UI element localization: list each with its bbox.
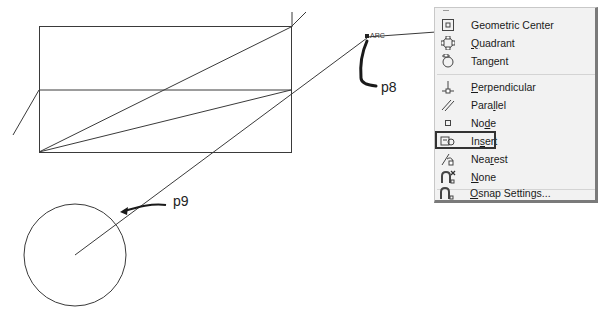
- menu-item-quadrant[interactable]: Quadrant: [435, 34, 593, 52]
- menu-item-insert[interactable]: Insert: [435, 132, 593, 150]
- extension-line-top-right: [291, 12, 306, 27]
- menu-item-node[interactable]: Node: [435, 114, 593, 132]
- nearest-icon: [439, 151, 457, 167]
- quadrant-icon: [439, 35, 457, 51]
- menu-item-label: Tangent: [471, 55, 508, 67]
- snap-marker-icon: [365, 34, 369, 38]
- menu-item-label: Geometric Center: [471, 19, 554, 31]
- osnap-settings-icon: [438, 185, 456, 201]
- node-icon: [439, 115, 457, 131]
- menu-item-osnap-settings-row[interactable]: Osnap Settings...: [434, 184, 592, 202]
- menu-item-label: Quadrant: [471, 37, 515, 49]
- parallel-icon: [439, 97, 457, 113]
- menu-item-label: Perpendicular: [471, 81, 536, 93]
- snap-marker-label: ARC: [370, 32, 385, 39]
- menu-item-label: Node: [471, 117, 496, 129]
- left-slanted-line: [13, 90, 39, 135]
- menu-item-geometric-center[interactable]: Geometric Center: [435, 16, 593, 34]
- menu-scroll-hint: [443, 10, 449, 11]
- selection-highlight: [435, 131, 496, 149]
- construction-line: [75, 38, 367, 255]
- menu-item-nearest[interactable]: Nearest: [435, 150, 593, 168]
- tangent-icon: [439, 53, 457, 69]
- diagonal-line-lower: [39, 90, 291, 152]
- menu-item-perpendicular[interactable]: Perpendicular: [435, 78, 593, 96]
- osnap-context-menu: Geometric Center Quadrant Tangent Perpen…: [434, 7, 598, 203]
- geometric-center-icon: [439, 17, 457, 33]
- menu-item-label: Nearest: [471, 153, 508, 165]
- label-p9: p9: [173, 193, 189, 209]
- p8-pointer-arrow: [361, 41, 376, 86]
- menu-item-label: Parallel: [471, 99, 506, 111]
- p9-pointer-arrow: [124, 204, 166, 211]
- menu-item-label: Osnap Settings...: [470, 187, 551, 199]
- label-p8: p8: [381, 79, 397, 95]
- menu-item-parallel[interactable]: Parallel: [435, 96, 593, 114]
- p9-arrowhead-icon: [120, 207, 128, 215]
- menu-separator: [437, 74, 595, 75]
- menu-item-tangent[interactable]: Tangent: [435, 52, 593, 70]
- perpendicular-icon: [439, 79, 457, 95]
